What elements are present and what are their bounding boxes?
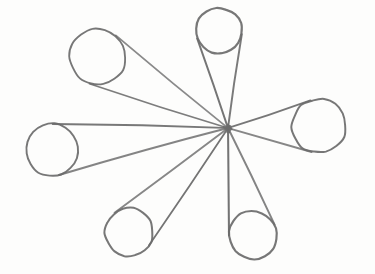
tangent-line-lower: [115, 126, 231, 213]
petal-circle: [229, 211, 277, 260]
petal-circle: [291, 99, 345, 152]
tangent-line-upper: [149, 126, 230, 246]
petal-circle: [104, 207, 152, 256]
tangent-line-upper: [225, 100, 310, 128]
petal-top: [196, 8, 242, 132]
tangent-line-upper: [59, 128, 230, 176]
tangent-line-upper: [90, 84, 232, 130]
petal-lower-left: [104, 126, 230, 257]
tangent-line-upper: [227, 126, 274, 224]
tangent-line-lower: [53, 124, 232, 128]
petal-lower-right: [227, 124, 277, 259]
pencil-sketch-svg: [0, 0, 375, 274]
petal-circle: [26, 123, 78, 176]
tangent-line-lower: [227, 34, 241, 132]
petal-circle: [69, 28, 125, 84]
tangent-line-lower: [228, 124, 229, 235]
petal-upper-left: [69, 28, 232, 130]
petal-circle: [196, 8, 242, 53]
petal-right: [224, 99, 346, 152]
sketch-page: [0, 0, 375, 274]
